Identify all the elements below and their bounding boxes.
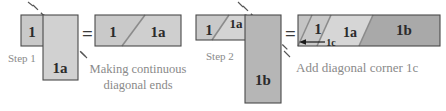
step-1-label: Step 1 — [8, 52, 36, 64]
piece-1a-label: 1a — [230, 16, 244, 31]
piece-1b-shape — [245, 15, 281, 103]
group-step-1-result: 1 1a Making continuous diagonal ends — [90, 15, 187, 92]
diagonal-dash-guide-tail-icon — [81, 52, 87, 58]
corner-1c-label: 1c — [326, 37, 336, 48]
piece-1-label: 1 — [314, 21, 322, 37]
step-2-label: Step 2 — [206, 50, 234, 62]
figure-canvas: 1 1a Step 1 = 1 1a Making continuous dia… — [0, 0, 446, 111]
group-step-1-overlap: 1 1a Step 1 — [8, 2, 87, 80]
caption-add-diagonal-corner: Add diagonal corner 1c — [296, 60, 419, 75]
piece-1-label: 1 — [109, 24, 117, 40]
piece-1b-label: 1b — [396, 22, 412, 38]
diagonal-dash-guide-tip-icon — [238, 2, 243, 7]
piece-1-label: 1 — [205, 22, 213, 38]
group-step-2-result: 1 1a 1b 1c Add diagonal corner 1c — [296, 15, 440, 75]
piece-1a-label: 1a — [151, 24, 167, 40]
equals-sign-2: = — [285, 23, 296, 44]
piece-1a-label: 1a — [53, 60, 69, 76]
group-step-2-overlap: 1 1a 1b Step 2 — [196, 2, 290, 103]
equals-sign-1: = — [82, 23, 93, 44]
diagonal-dash-guide-tail-icon — [284, 51, 290, 57]
diagonal-dash-guide-tip-icon — [28, 2, 33, 6]
piece-1a-label: 1a — [343, 25, 357, 40]
piecing-diagram: 1 1a Step 1 = 1 1a Making continuous dia… — [0, 0, 446, 111]
piece-1-label: 1 — [28, 24, 36, 40]
caption-line-1: Making continuous — [90, 62, 187, 76]
caption-line-2: diagonal ends — [103, 78, 172, 92]
piece-1b-label: 1b — [255, 72, 271, 88]
